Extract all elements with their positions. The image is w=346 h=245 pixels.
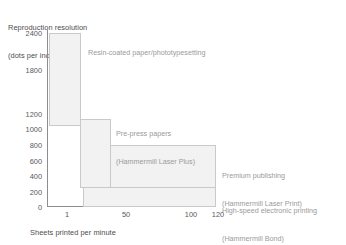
y-tick-800: 800 (12, 141, 42, 150)
x-tick-100: 100 (176, 210, 206, 219)
y-tick-label: 800 (12, 141, 42, 150)
annotation-line1: Resin-coated paper/phototypesetting (88, 48, 205, 57)
annotation-resin-coated: Resin-coated paper/phototypesetting (88, 30, 205, 76)
x-tick-label: 1 (65, 210, 69, 219)
y-tick-2400: 2400 (12, 29, 42, 38)
annotation-line2: (Hammermill Laser Plus) (116, 157, 195, 166)
y-tick-label: 600 (12, 157, 42, 166)
step-bar-resin-coated (49, 33, 81, 126)
y-tick-200: 200 (12, 188, 42, 197)
y-tick-1200: 1200 (12, 110, 42, 119)
x-tick-label: 120 (212, 210, 224, 219)
annotation-line1: Pre-press papers (116, 129, 195, 138)
plot-area: Reproduction resolution (dots per inch) … (0, 0, 346, 245)
annotation-high-speed-electronic: High-speed electronic printing (Hammermi… (222, 188, 317, 245)
x-tick-50: 50 (111, 210, 141, 219)
y-tick-label: 1000 (12, 125, 42, 134)
x-tick-label: 100 (185, 210, 197, 219)
y-tick-label: 400 (12, 172, 42, 181)
y-tick-1000: 1000 (12, 125, 42, 134)
x-axis-title: Sheets printed per minute (30, 228, 116, 237)
y-tick-label: 2400 (12, 29, 42, 38)
step-bar-high-speed-electronic (83, 187, 216, 207)
step-bar-pre-press (80, 119, 111, 188)
annotation-pre-press: Pre-press papers (Hammermill Laser Plus) (116, 111, 195, 185)
y-tick-label: 0 (12, 203, 42, 212)
x-tick-1: 1 (52, 210, 82, 219)
y-axis-line (47, 30, 48, 207)
x-tick-label: 50 (122, 210, 130, 219)
y-tick-600: 600 (12, 157, 42, 166)
x-tick-120: 120 (203, 210, 233, 219)
y-tick-label: 1800 (12, 66, 42, 75)
annotation-line2: (Hammermill Bond) (222, 234, 317, 243)
chart-root: Reproduction resolution (dots per inch) … (0, 0, 346, 245)
y-tick-0: 0 (12, 203, 42, 212)
y-tick-1800: 1800 (12, 66, 42, 75)
y-tick-400: 400 (12, 172, 42, 181)
annotation-line1: Premium publishing (222, 171, 302, 180)
y-tick-label: 200 (12, 188, 42, 197)
annotation-line1: High-speed electronic printing (222, 206, 317, 215)
y-tick-label: 1200 (12, 110, 42, 119)
